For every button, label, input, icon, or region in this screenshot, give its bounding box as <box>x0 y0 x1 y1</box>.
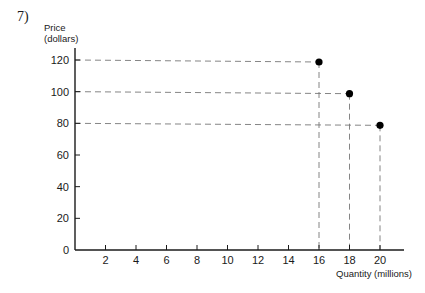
y-tick-label: 80 <box>57 117 69 129</box>
x-tick-label: 8 <box>194 254 200 266</box>
horizontal-guide <box>75 123 380 125</box>
x-tick-label: 18 <box>343 254 355 266</box>
x-tick-label: 14 <box>282 254 294 266</box>
y-tick-label: 60 <box>57 149 69 161</box>
y-tick-label: 40 <box>57 181 69 193</box>
x-axis-ticks: 2468101214161820 <box>102 245 386 266</box>
y-tick-label: 0 <box>63 244 69 256</box>
x-tick-label: 4 <box>133 254 139 266</box>
horizontal-guide <box>75 92 350 94</box>
data-point <box>376 122 383 129</box>
y-tick-label: 100 <box>51 86 69 98</box>
y-tick-label: 120 <box>51 54 69 66</box>
y-tick-label: 20 <box>57 212 69 224</box>
x-tick-label: 2 <box>102 254 108 266</box>
x-tick-label: 12 <box>252 254 264 266</box>
x-tick-label: 10 <box>221 254 233 266</box>
x-tick-label: 6 <box>163 254 169 266</box>
horizontal-guide <box>75 60 319 62</box>
x-tick-label: 20 <box>374 254 386 266</box>
data-point <box>346 90 353 97</box>
data-point <box>315 58 322 65</box>
x-tick-label: 16 <box>313 254 325 266</box>
dashed-guide-lines <box>75 60 380 250</box>
scatter-chart: 020406080100120 2468101214161820 <box>0 0 425 293</box>
